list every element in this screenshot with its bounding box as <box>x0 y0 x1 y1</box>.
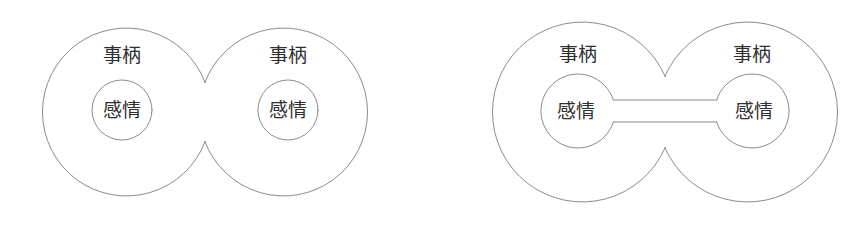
figure-root: 事柄 感情 事柄 感情 事柄 感情 事柄 感情 <box>0 0 868 227</box>
left-diagram: 事柄 感情 事柄 感情 <box>42 28 367 196</box>
left-diagram-lobe-1-outer-label: 事柄 <box>103 44 142 66</box>
right-diagram: 事柄 感情 事柄 感情 <box>492 22 837 202</box>
left-diagram-lobe-2-outer-label: 事柄 <box>269 44 308 66</box>
left-diagram-lobe-1-inner-label: 感情 <box>103 99 142 121</box>
right-diagram-lobe-1-outer-label: 事柄 <box>559 43 598 65</box>
right-diagram-lobe-2-outer-label: 事柄 <box>733 43 772 65</box>
right-diagram-lobe-2-inner-label: 感情 <box>735 100 774 122</box>
right-diagram-lobe-1-inner-label: 感情 <box>557 100 596 122</box>
left-diagram-lobe-2-inner-label: 感情 <box>269 99 308 121</box>
diagram-canvas: 事柄 感情 事柄 感情 事柄 感情 事柄 感情 <box>0 0 868 227</box>
